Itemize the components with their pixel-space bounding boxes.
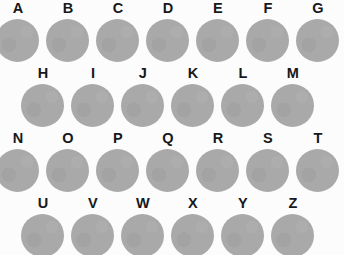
cell-label-m: M (271, 65, 315, 83)
row-1: ABCDEFG (0, 0, 344, 65)
specimen-disc-e[interactable] (196, 19, 239, 62)
plate-cell-m[interactable]: M (271, 65, 315, 130)
specimen-disc-g[interactable] (296, 19, 339, 62)
plate-cell-l[interactable]: L (221, 65, 265, 130)
plate-cell-j[interactable]: J (121, 65, 165, 130)
cell-label-e: E (196, 0, 240, 18)
cell-label-b: B (46, 0, 90, 18)
specimen-disc-d[interactable] (146, 19, 189, 62)
plate-cell-t[interactable]: T (296, 130, 340, 195)
cell-label-i: I (71, 65, 115, 83)
specimen-disc-j[interactable] (121, 84, 164, 127)
plate-cell-y[interactable]: Y (221, 195, 265, 255)
specimen-disc-z[interactable] (271, 214, 314, 255)
plate-cell-z[interactable]: Z (271, 195, 315, 255)
plate-cell-r[interactable]: R (196, 130, 240, 195)
plate-cell-g[interactable]: G (296, 0, 340, 65)
cell-label-x: X (171, 195, 215, 213)
plate-cell-s[interactable]: S (246, 130, 290, 195)
specimen-disc-q[interactable] (146, 149, 189, 192)
plate-cell-b[interactable]: B (46, 0, 90, 65)
cell-label-l: L (221, 65, 265, 83)
cell-label-j: J (121, 65, 165, 83)
plate-cell-n[interactable]: N (0, 130, 40, 195)
plate-cell-x[interactable]: X (171, 195, 215, 255)
cell-label-q: Q (146, 130, 190, 148)
specimen-disc-v[interactable] (71, 214, 114, 255)
cell-label-p: P (96, 130, 140, 148)
row-3: NOPQRST (0, 130, 344, 195)
cell-label-k: K (171, 65, 215, 83)
specimen-disc-h[interactable] (21, 84, 64, 127)
cell-label-c: C (96, 0, 140, 18)
cell-label-o: O (46, 130, 90, 148)
specimen-disc-r[interactable] (196, 149, 239, 192)
specimen-disc-s[interactable] (246, 149, 289, 192)
specimen-disc-t[interactable] (296, 149, 339, 192)
specimen-disc-m[interactable] (271, 84, 314, 127)
cell-label-s: S (246, 130, 290, 148)
cell-label-v: V (71, 195, 115, 213)
plate-cell-h[interactable]: H (21, 65, 65, 130)
plate-cell-w[interactable]: W (121, 195, 165, 255)
plate-cell-o[interactable]: O (46, 130, 90, 195)
specimen-disc-n[interactable] (0, 149, 39, 192)
row-2: HIJKLM (0, 65, 344, 130)
cell-label-u: U (21, 195, 65, 213)
specimen-disc-o[interactable] (46, 149, 89, 192)
plate-cell-u[interactable]: U (21, 195, 65, 255)
plate-cell-a[interactable]: A (0, 0, 40, 65)
plate-cell-i[interactable]: I (71, 65, 115, 130)
specimen-disc-i[interactable] (71, 84, 114, 127)
specimen-disc-a[interactable] (0, 19, 39, 62)
specimen-disc-c[interactable] (96, 19, 139, 62)
plate-cell-q[interactable]: Q (146, 130, 190, 195)
cell-label-f: F (246, 0, 290, 18)
cell-label-h: H (21, 65, 65, 83)
cell-label-n: N (0, 130, 40, 148)
specimen-disc-w[interactable] (121, 214, 164, 255)
specimen-disc-p[interactable] (96, 149, 139, 192)
cell-label-w: W (121, 195, 165, 213)
specimen-plate-grid: ABCDEFGHIJKLMNOPQRSTUVWXYZ (0, 0, 344, 255)
plate-cell-d[interactable]: D (146, 0, 190, 65)
plate-cell-c[interactable]: C (96, 0, 140, 65)
plate-cell-p[interactable]: P (96, 130, 140, 195)
plate-cell-k[interactable]: K (171, 65, 215, 130)
cell-label-t: T (296, 130, 340, 148)
cell-label-z: Z (271, 195, 315, 213)
cell-label-r: R (196, 130, 240, 148)
specimen-disc-k[interactable] (171, 84, 214, 127)
cell-label-d: D (146, 0, 190, 18)
specimen-disc-u[interactable] (21, 214, 64, 255)
plate-cell-f[interactable]: F (246, 0, 290, 65)
specimen-disc-y[interactable] (221, 214, 264, 255)
plate-cell-v[interactable]: V (71, 195, 115, 255)
specimen-disc-x[interactable] (171, 214, 214, 255)
specimen-disc-f[interactable] (246, 19, 289, 62)
row-4: UVWXYZ (0, 195, 344, 255)
specimen-disc-l[interactable] (221, 84, 264, 127)
plate-cell-e[interactable]: E (196, 0, 240, 65)
cell-label-a: A (0, 0, 40, 18)
cell-label-y: Y (221, 195, 265, 213)
specimen-disc-b[interactable] (46, 19, 89, 62)
cell-label-g: G (296, 0, 340, 18)
